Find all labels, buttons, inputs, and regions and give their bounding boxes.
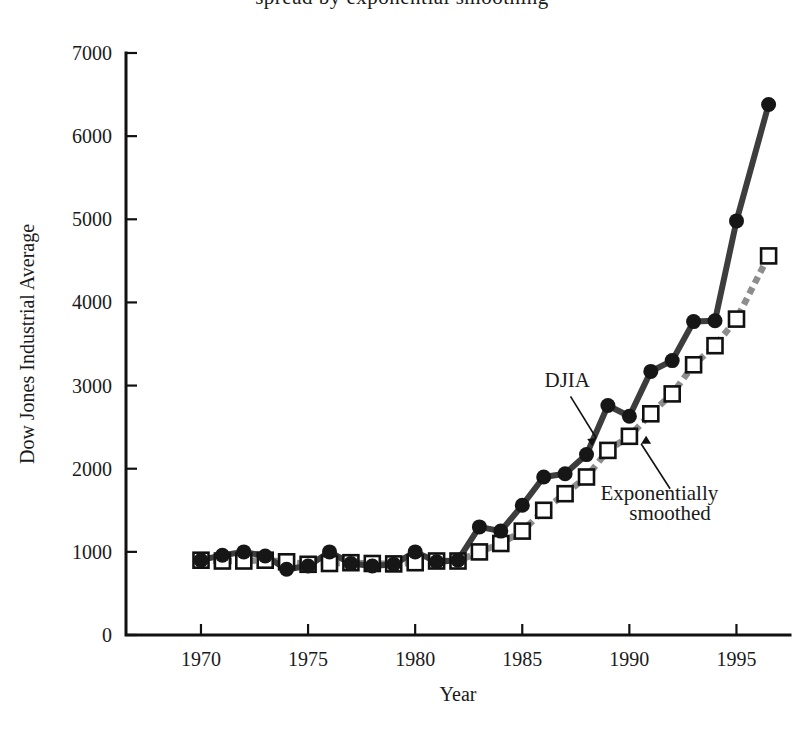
djia-data-point: [708, 313, 723, 328]
djia-data-point: [301, 559, 316, 574]
smoothed-data-point: [558, 486, 573, 501]
smoothed-data-point: [729, 312, 744, 327]
x-axis-tick-label: 1970: [181, 648, 221, 670]
djia-data-point: [622, 409, 637, 424]
axes: 0100020003000400050006000700019701975198…: [72, 42, 790, 670]
djia-data-point: [451, 553, 466, 568]
djia-data-point: [665, 353, 680, 368]
y-axis-tick-label: 7000: [72, 42, 112, 64]
djia-data-point: [194, 553, 209, 568]
djia-data-point: [343, 556, 358, 571]
djia-data-point: [643, 364, 658, 379]
x-axis-title: Year: [440, 683, 477, 705]
djia-data-point: [686, 314, 701, 329]
y-axis-tick-label: 5000: [72, 208, 112, 230]
y-axis-tick-label: 3000: [72, 375, 112, 397]
x-axis-tick-label: 1975: [288, 648, 328, 670]
djia-data-point: [515, 498, 530, 513]
djia-annotation: DJIA: [544, 368, 590, 392]
smoothed-data-point: [579, 470, 594, 485]
smoothed-data-point: [643, 406, 658, 421]
smoothed-data-point: [761, 248, 776, 263]
x-axis-tick-label: 1990: [609, 648, 649, 670]
y-axis-tick-label: 4000: [72, 291, 112, 313]
x-axis-tick-label: 1985: [502, 648, 542, 670]
smoothed-data-point: [536, 503, 551, 518]
djia-data-point: [729, 213, 744, 228]
smoothed-data-point: [686, 357, 701, 372]
djia-data-point: [236, 544, 251, 559]
djia-data-point: [761, 97, 776, 112]
djia-annotation-arrow: [571, 396, 597, 438]
djia-data-point: [258, 549, 273, 564]
djia-data-point: [429, 554, 444, 569]
smoothed-annotation-line2: smoothed: [629, 501, 711, 525]
smoothed-data-point: [665, 386, 680, 401]
djia-data-point: [493, 524, 508, 539]
cropped-title-line: spread by exponential smoothing: [0, 0, 804, 16]
djia-data-point: [558, 466, 573, 481]
djia-data-point: [215, 548, 230, 563]
plot-area: 0100020003000400050006000700019701975198…: [0, 0, 804, 733]
smoothed-data-point: [472, 544, 487, 559]
djia-data-point: [472, 519, 487, 534]
djia-data-point: [386, 557, 401, 572]
y-axis-title: Dow Jones Industrial Average: [16, 224, 39, 464]
smoothed-data-point: [622, 429, 637, 444]
smoothed-data-point: [515, 524, 530, 539]
axis-frame: [126, 53, 790, 635]
djia-data-point: [408, 544, 423, 559]
cropped-title-text: spread by exponential smoothing: [0, 0, 804, 8]
y-axis-tick-label: 6000: [72, 125, 112, 147]
smoothed-data-point: [600, 443, 615, 458]
x-axis-tick-label: 1980: [395, 648, 435, 670]
djia-data-point: [600, 398, 615, 413]
smoothed-data-point: [708, 338, 723, 353]
djia-data-point: [536, 470, 551, 485]
y-axis-tick-label: 0: [102, 624, 112, 646]
djia-data-point: [322, 544, 337, 559]
djia-data-point: [579, 447, 594, 462]
djia-chart: spread by exponential smoothing 01000200…: [0, 0, 804, 733]
y-axis-tick-label: 1000: [72, 541, 112, 563]
djia-data-point: [365, 559, 380, 574]
y-axis-tick-label: 2000: [72, 458, 112, 480]
djia-data-point: [279, 562, 294, 577]
x-axis-tick-label: 1995: [716, 648, 756, 670]
smoothed-arrow-head: [641, 436, 651, 444]
